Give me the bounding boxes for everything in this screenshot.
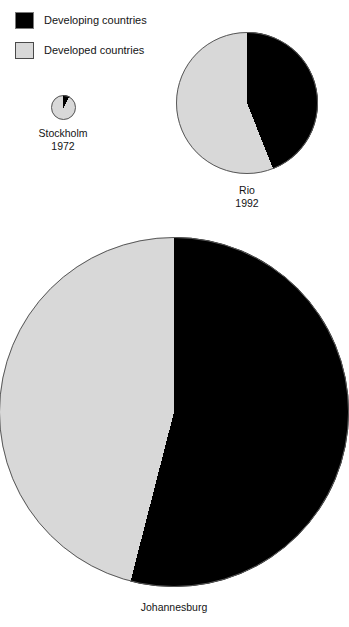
pie-stockholm-caption: Stockholm 1972: [22, 127, 104, 153]
pie-chart-rio: Rio 1992: [176, 32, 318, 210]
pie-johannesburg-graphic: [0, 237, 349, 587]
pie-chart-stockholm: Stockholm 1972: [22, 95, 104, 153]
pie-rio-name: Rio: [176, 184, 318, 197]
pie-stockholm-name: Stockholm: [22, 127, 104, 140]
pie-rio-outline: [176, 32, 318, 174]
legend-swatch-developing-icon: [15, 12, 34, 29]
pie-johannesburg-caption: Johannesburg: [0, 601, 349, 614]
pie-rio-caption: Rio 1992: [176, 184, 318, 210]
pie-stockholm-outline: [51, 95, 76, 120]
legend-swatch-developed-icon: [15, 42, 34, 59]
pie-stockholm-year: 1972: [22, 140, 104, 153]
legend-item-developed: Developed countries: [15, 39, 185, 61]
legend-item-developing: Developing countries: [15, 9, 185, 31]
pie-rio-graphic: [176, 32, 318, 174]
pie-chart-johannesburg: Johannesburg: [0, 237, 349, 614]
legend-label-developed: Developed countries: [44, 44, 144, 57]
pie-rio-year: 1992: [176, 197, 318, 210]
legend: Developing countries Developed countries: [15, 9, 185, 69]
legend-label-developing: Developing countries: [44, 14, 147, 27]
pie-stockholm-graphic: [51, 95, 76, 120]
pie-johannesburg-name: Johannesburg: [0, 601, 349, 614]
pie-johannesburg-outline: [0, 237, 349, 587]
